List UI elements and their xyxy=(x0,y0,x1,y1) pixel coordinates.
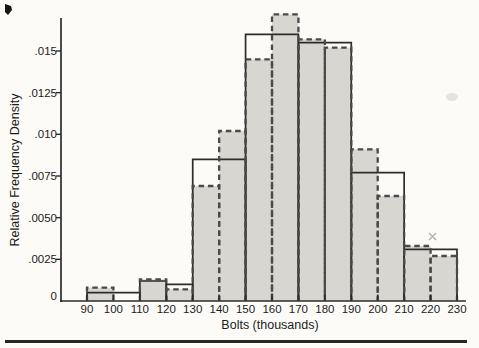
x-tick-label: 170 xyxy=(289,303,308,315)
y-tick-label: .0050 xyxy=(28,212,57,224)
x-tick-label: 190 xyxy=(342,303,361,315)
histogram-chart: 9010011012013014015016017018019020021022… xyxy=(0,0,479,348)
density-bar-fill xyxy=(193,186,219,301)
scanned-figure-page: 9010011012013014015016017018019020021022… xyxy=(0,0,479,348)
density-bar-fill xyxy=(272,14,298,301)
y-tick-label: .0125 xyxy=(28,87,57,99)
x-tick-label: 160 xyxy=(262,303,281,315)
density-bar-fill xyxy=(140,279,166,301)
density-bar-fill xyxy=(246,59,272,301)
density-bar-fill xyxy=(431,256,457,301)
y-tick-label: .015 xyxy=(35,45,57,57)
y-tick-label: 0 xyxy=(51,290,57,302)
x-tick-label: 130 xyxy=(183,303,202,315)
x-tick-label: 90 xyxy=(81,303,94,315)
density-bar-fill xyxy=(298,39,324,301)
x-tick-label: 120 xyxy=(157,303,176,315)
x-tick-label: 180 xyxy=(315,303,334,315)
x-tick-label: 200 xyxy=(368,303,387,315)
y-axis-title: Relative Frequency Density xyxy=(8,93,22,247)
x-tick-label: 210 xyxy=(395,303,414,315)
page-bottom-rule xyxy=(5,340,467,343)
x-tick-label: 100 xyxy=(104,303,123,315)
density-bar-fill xyxy=(378,196,404,301)
density-bar-fill xyxy=(87,288,113,301)
x-tick-label: 230 xyxy=(447,303,466,315)
x-tick-label: 140 xyxy=(210,303,229,315)
y-tick-label: .0075 xyxy=(28,170,57,182)
density-bar-fill xyxy=(404,246,430,301)
y-tick-label: .0025 xyxy=(28,253,57,265)
density-bar-fill xyxy=(219,131,245,301)
y-tick-label: .010 xyxy=(35,128,57,140)
smudge-artifact xyxy=(446,93,458,101)
x-tick-label: 110 xyxy=(131,303,149,315)
x-tick-label: 150 xyxy=(236,303,255,315)
x-tick-label: 220 xyxy=(421,303,440,315)
density-bar-fill xyxy=(325,48,351,301)
density-bar-fill xyxy=(166,289,192,301)
x-axis-title: Bolts (thousands) xyxy=(221,318,318,332)
